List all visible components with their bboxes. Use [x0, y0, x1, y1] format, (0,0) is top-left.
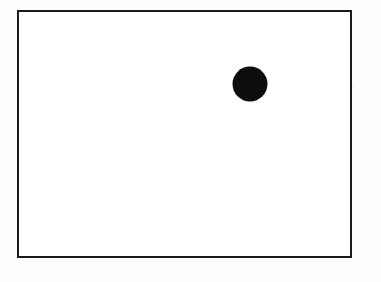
- frame-rectangle: [18, 11, 351, 257]
- figure-drawing: [0, 0, 381, 282]
- filled-dot: [233, 67, 268, 102]
- figure-canvas: [0, 0, 381, 282]
